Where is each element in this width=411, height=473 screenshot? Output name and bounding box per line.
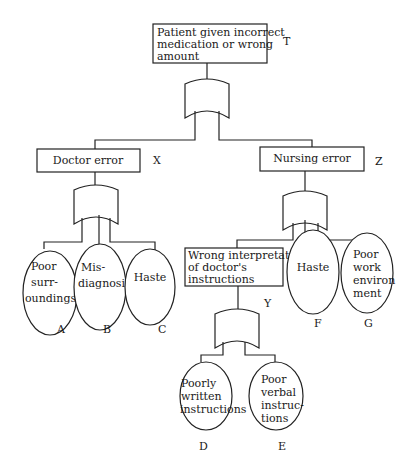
event-a-line-3: oundings — [25, 292, 76, 305]
event-g-line-4: ment — [353, 287, 382, 300]
top-event-id: T — [283, 35, 291, 48]
event-d-line-3: instructions — [180, 403, 247, 416]
event-b-line-1: Mis- — [81, 261, 105, 274]
event-e-line-4: tions — [261, 412, 289, 425]
basic-event-b: Mis- diagnosis B — [74, 244, 131, 336]
doctor-error-label: Doctor error — [53, 154, 124, 167]
intermediate-event-z: Nursing error Z — [260, 147, 383, 171]
basic-event-a: Poor surr- oundings A — [23, 251, 77, 336]
event-y-id: Y — [263, 297, 272, 310]
event-g-line-3: environ — [353, 274, 395, 287]
event-y-line-3: instructions — [188, 273, 255, 286]
event-e-line-1: Poor — [261, 373, 287, 386]
event-a-line-2: surr- — [31, 276, 58, 289]
basic-event-f: Haste F — [287, 230, 339, 330]
basic-event-d: Poorly written instructions D — [180, 362, 247, 453]
event-b-line-2: diagnosis — [78, 277, 131, 290]
fault-tree-diagram: Patient given incorrect medication or wr… — [0, 0, 411, 473]
event-e-line-3: instruc- — [261, 399, 304, 412]
top-event-line-3: amount — [157, 50, 200, 63]
event-d-line-2: written — [181, 390, 222, 403]
event-c-circle — [125, 249, 175, 325]
top-event-t: Patient given incorrect medication or wr… — [153, 24, 291, 63]
basic-event-c: Haste C — [125, 249, 175, 336]
event-c-id: C — [158, 323, 166, 336]
event-e-line-2: verbal — [260, 386, 297, 399]
or-gate-icon-y — [215, 309, 259, 348]
nursing-error-id: Z — [375, 155, 383, 168]
event-a-line-1: Poor — [31, 260, 57, 273]
event-c-line-1: Haste — [134, 271, 167, 284]
event-b-id: B — [103, 323, 111, 336]
doctor-error-id: X — [153, 154, 161, 167]
event-d-line-1: Poorly — [181, 377, 217, 390]
intermediate-event-x: Doctor error X — [37, 149, 161, 172]
event-a-id: A — [56, 323, 66, 336]
event-g-line-2: work — [353, 261, 381, 274]
or-gate-icon-t — [185, 79, 229, 118]
event-f-line-1: Haste — [297, 261, 330, 274]
event-d-id: D — [199, 440, 208, 453]
or-gate-icon-x — [74, 185, 118, 224]
nursing-error-label: Nursing error — [273, 152, 351, 165]
event-f-id: F — [314, 317, 322, 330]
event-g-id: G — [364, 317, 373, 330]
basic-event-e: Poor verbal instruc- tions E — [249, 362, 304, 453]
basic-event-g: Poor work environ ment G — [341, 233, 395, 330]
event-e-id: E — [278, 440, 286, 453]
event-g-line-1: Poor — [353, 248, 379, 261]
